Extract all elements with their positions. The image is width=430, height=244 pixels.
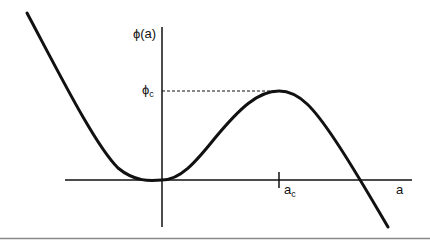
potential-diagram: ϕ(a) a ϕc ac (0, 0, 430, 244)
critical-value-label: ϕc (142, 82, 154, 99)
y-axis-label: ϕ(a) (133, 26, 156, 41)
critical-point-label: ac (284, 182, 296, 199)
x-axis-label: a (396, 182, 404, 197)
potential-curve (27, 13, 388, 227)
